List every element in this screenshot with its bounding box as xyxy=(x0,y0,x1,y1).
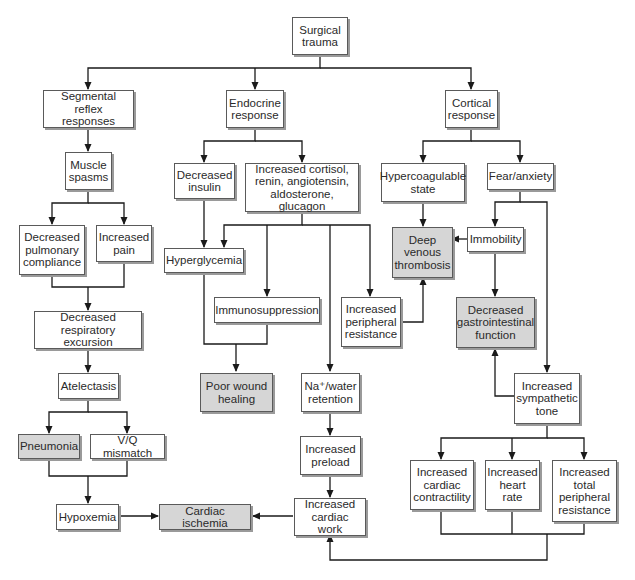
flowchart-canvas: Surgical trauma Segmental reflex respons… xyxy=(0,0,635,580)
node-increased-pain: Increased pain xyxy=(96,225,152,262)
node-endocrine-response: Endocrine response xyxy=(226,90,284,128)
node-hypercoagulable-state: Hypercoagulable state xyxy=(381,163,465,202)
node-deep-venous-thrombosis: Deep venous thrombosis xyxy=(392,227,453,278)
node-increased-total-peripheral-resistance: Increased total peripheral resistance xyxy=(552,460,617,522)
node-vq-mismatch: V/Q mismatch xyxy=(90,434,165,459)
node-hypoxemia: Hypoxemia xyxy=(56,504,119,530)
node-surgical-trauma: Surgical trauma xyxy=(292,17,348,55)
node-na-water-retention: Na⁺/water retention xyxy=(301,373,360,412)
node-pneumonia: Pneumonia xyxy=(18,434,80,459)
node-increased-preload: Increased preload xyxy=(300,436,361,475)
node-decreased-pulmonary-compliance: Decreased pulmonary compliance xyxy=(19,225,85,275)
node-muscle-spasms: Muscle spasms xyxy=(65,152,112,190)
node-decreased-gastrointestinal-function: Decreased gastrointestinal function xyxy=(456,297,535,348)
node-increased-cardiac-contractility: Increased cardiac contractility xyxy=(410,460,474,510)
node-poor-wound-healing: Poor wound healing xyxy=(200,373,273,412)
node-cortical-response: Cortical response xyxy=(445,90,498,128)
node-hyperglycemia: Hyperglycemia xyxy=(164,248,244,273)
node-increased-peripheral-resistance: Increased peripheral resistance xyxy=(341,297,401,347)
node-fear-anxiety: Fear/anxiety xyxy=(487,163,554,190)
node-immunosuppression: Immunosuppression xyxy=(214,297,320,323)
node-atelectasis: Atelectasis xyxy=(58,373,119,399)
node-increased-sympathetic-tone: Increased sympathetic tone xyxy=(514,373,580,424)
node-increased-cardiac-work: Increased cardiac work xyxy=(294,498,366,536)
node-increased-heart-rate: Increased heart rate xyxy=(485,460,540,510)
node-increased-cortisol-renin-angiotensin-aldosterone-glucagon: Increased cortisol, renin, angiotensin, … xyxy=(245,163,359,212)
node-decreased-respiratory-excursion: Decreased respiratory excursion xyxy=(34,311,142,349)
node-decreased-insulin: Decreased insulin xyxy=(174,163,235,199)
node-cardiac-ischemia: Cardiac ischemia xyxy=(159,504,251,530)
node-segmental-reflex-responses: Segmental reflex responses xyxy=(43,90,134,128)
node-immobility: Immobility xyxy=(467,227,524,252)
